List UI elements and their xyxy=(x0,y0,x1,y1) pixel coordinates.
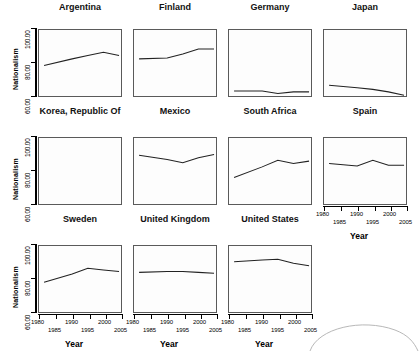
panel-plot-korea xyxy=(38,137,122,205)
x-tick-sweden-1995 xyxy=(90,314,91,319)
x-tick-label-uk-2005: 2005 xyxy=(209,327,222,333)
panel-line-argentina xyxy=(39,30,121,96)
x-tick-label-spain-1985: 1985 xyxy=(333,219,346,225)
x-tick-label-sweden-1985: 1985 xyxy=(48,327,61,333)
x-axis-title-united-states: Year xyxy=(255,339,273,349)
x-tick-spain-1985 xyxy=(341,206,342,211)
y-tick-label-row1-80: 80.00 xyxy=(24,173,31,188)
panel-plot-argentina xyxy=(38,29,122,97)
x-tick-sweden-1985 xyxy=(56,314,57,319)
x-tick-label-uk-1980: 1980 xyxy=(126,319,139,325)
panel-line-germany xyxy=(229,30,311,96)
x-tick-label-spain-2005: 2005 xyxy=(399,219,412,225)
panel-line-japan xyxy=(324,30,406,96)
y-tick-label-row1-100: 100.00 xyxy=(24,138,31,157)
x-tick-label-us-1990: 1990 xyxy=(255,319,268,325)
y-tick-label-row0-60: 60.00 xyxy=(24,99,31,114)
x-axis-line-united-states xyxy=(228,314,313,315)
y-tick-label-row0-100: 100.00 xyxy=(24,30,31,49)
y-axis-line-row1 xyxy=(35,136,37,205)
x-tick-us-1985 xyxy=(246,314,247,319)
panel-title-mexico: Mexico xyxy=(133,107,217,117)
y-axis-title-row0: Nationalism xyxy=(12,48,19,90)
x-tick-spain-1995 xyxy=(375,206,376,211)
y-axis-line-row0 xyxy=(35,28,37,97)
x-tick-label-sweden-1980: 1980 xyxy=(31,319,44,325)
panel-title-united-states: United States xyxy=(228,215,312,225)
x-tick-label-sweden-1990: 1990 xyxy=(65,319,78,325)
panel-plot-germany xyxy=(228,29,312,97)
x-tick-label-us-1985: 1985 xyxy=(238,327,251,333)
x-tick-label-uk-2000: 2000 xyxy=(193,319,206,325)
y-tick-row0-80 xyxy=(31,62,35,63)
x-axis-title-spain: Year xyxy=(350,231,368,241)
panel-line-united-states xyxy=(229,246,311,312)
y-tick-row1-80 xyxy=(31,170,35,171)
panel-plot-japan xyxy=(323,29,407,97)
x-tick-label-sweden-2005: 2005 xyxy=(114,327,127,333)
y-axis-title-row1: Nationalism xyxy=(12,158,19,200)
chart-figure: Argentina Finland Germany Japan National… xyxy=(0,0,419,351)
x-tick-label-us-1995: 1995 xyxy=(271,327,284,333)
panel-line-korea xyxy=(39,138,121,204)
x-tick-uk-1995 xyxy=(185,314,186,319)
panel-title-finland: Finland xyxy=(133,3,217,13)
panel-line-sweden xyxy=(39,246,121,312)
panel-plot-finland xyxy=(133,29,217,97)
x-tick-uk-1985 xyxy=(151,314,152,319)
y-tick-row2-60 xyxy=(31,312,35,313)
x-tick-label-us-2005: 2005 xyxy=(304,327,317,333)
panel-title-japan: Japan xyxy=(323,3,407,13)
y-tick-row2-80 xyxy=(31,278,35,279)
panel-title-argentina: Argentina xyxy=(38,3,122,13)
x-axis-line-spain xyxy=(323,206,408,207)
x-tick-sweden-2005 xyxy=(122,314,123,319)
y-tick-label-row2-60: 60.00 xyxy=(24,315,31,330)
y-tick-row1-100 xyxy=(31,136,35,137)
x-tick-label-us-1980: 1980 xyxy=(221,319,234,325)
panel-line-south-africa xyxy=(229,138,311,204)
panel-title-south-africa: South Africa xyxy=(228,107,312,117)
scan-artifact xyxy=(300,320,419,351)
panel-plot-united-states xyxy=(228,245,312,313)
x-tick-us-1995 xyxy=(280,314,281,319)
x-tick-label-spain-1995: 1995 xyxy=(366,219,379,225)
y-tick-label-row2-80: 80.00 xyxy=(24,281,31,296)
x-tick-label-uk-1995: 1995 xyxy=(176,327,189,333)
x-axis-title-united-kingdom: Year xyxy=(160,339,178,349)
x-tick-uk-2005 xyxy=(217,314,218,319)
x-tick-us-2005 xyxy=(312,314,313,319)
y-tick-label-row0-80: 80.00 xyxy=(24,65,31,80)
y-tick-row0-100 xyxy=(31,28,35,29)
panel-plot-spain xyxy=(323,137,407,205)
panel-line-finland xyxy=(134,30,216,96)
x-axis-title-sweden: Year xyxy=(65,339,83,349)
y-axis-line-row2 xyxy=(35,244,37,313)
panel-line-spain xyxy=(324,138,406,204)
x-tick-label-spain-1980: 1980 xyxy=(316,211,329,217)
panel-plot-united-kingdom xyxy=(133,245,217,313)
x-tick-label-spain-1990: 1990 xyxy=(350,211,363,217)
y-tick-row0-60 xyxy=(31,96,35,97)
panel-title-korea: Korea, Republic Of xyxy=(33,107,127,117)
x-axis-line-united-kingdom xyxy=(133,314,218,315)
x-tick-label-uk-1990: 1990 xyxy=(160,319,173,325)
x-tick-label-spain-2000: 2000 xyxy=(383,211,396,217)
y-tick-row1-60 xyxy=(31,204,35,205)
panel-plot-south-africa xyxy=(228,137,312,205)
x-tick-label-sweden-2000: 2000 xyxy=(98,319,111,325)
panel-title-spain: Spain xyxy=(323,107,407,117)
y-tick-label-row1-60: 60.00 xyxy=(24,207,31,222)
x-tick-spain-2005 xyxy=(407,206,408,211)
panel-line-mexico xyxy=(134,138,216,204)
y-tick-label-row2-100: 100.00 xyxy=(24,246,31,265)
panel-line-united-kingdom xyxy=(134,246,216,312)
y-axis-title-row2: Nationalism xyxy=(12,266,19,308)
x-axis-line-sweden xyxy=(38,314,123,315)
x-tick-label-uk-1985: 1985 xyxy=(143,327,156,333)
panel-title-germany: Germany xyxy=(228,3,312,13)
x-tick-label-us-2000: 2000 xyxy=(288,319,301,325)
panel-plot-mexico xyxy=(133,137,217,205)
x-tick-label-sweden-1995: 1995 xyxy=(81,327,94,333)
panel-plot-sweden xyxy=(38,245,122,313)
